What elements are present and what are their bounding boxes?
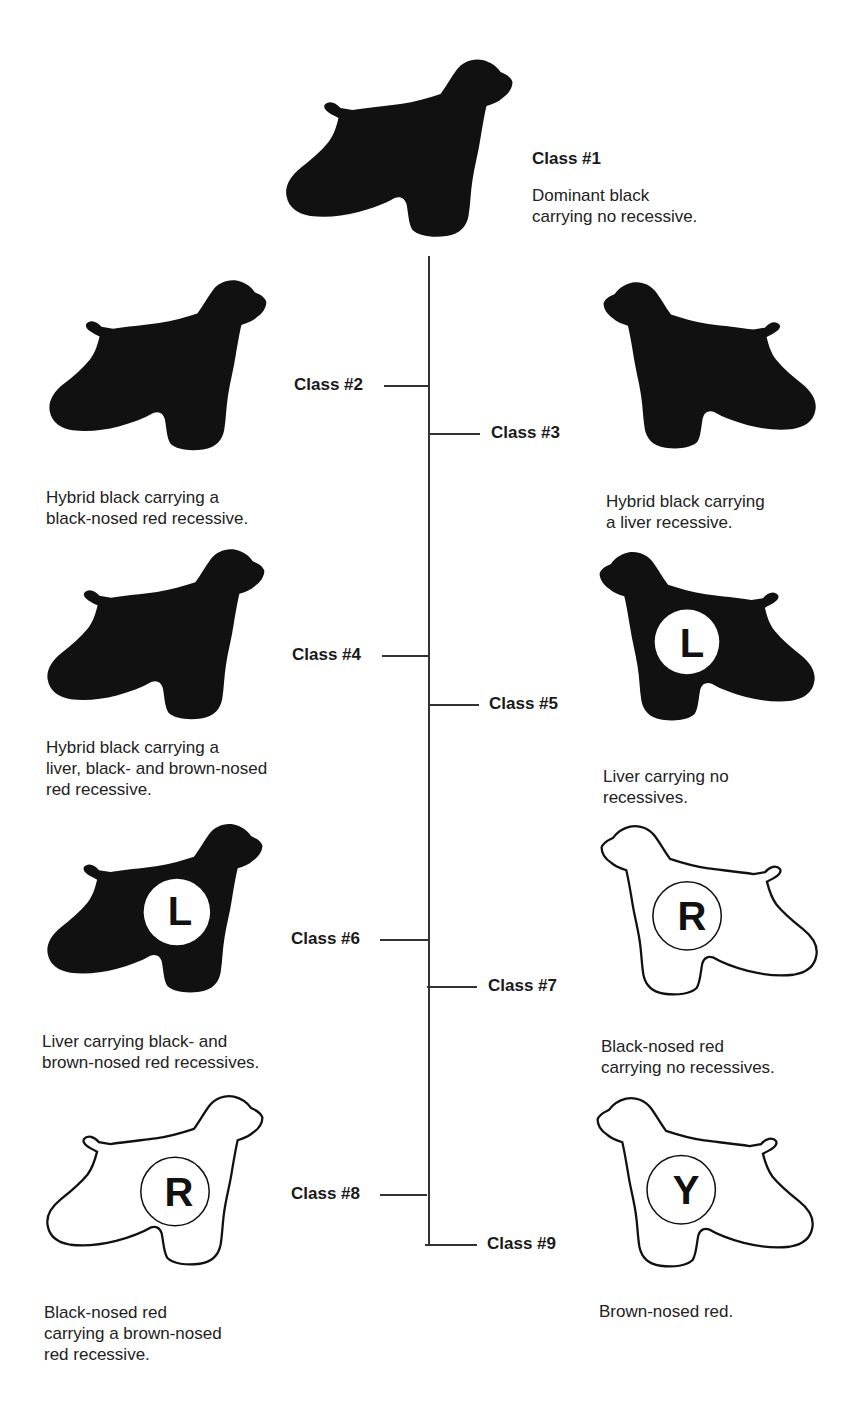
class-1-description: Dominant black carrying no recessive. — [532, 185, 697, 227]
dog-silhouette-class-2 — [44, 276, 274, 460]
class-8-connector — [380, 1194, 427, 1196]
class-9-connector — [425, 1244, 477, 1246]
dog-silhouette-class-4 — [42, 544, 272, 730]
class-5-badge: L — [658, 612, 726, 674]
class-7-label: Class #7 — [488, 976, 557, 996]
dog-silhouette-class-6: L — [42, 818, 270, 1004]
class-6-connector — [380, 939, 428, 941]
dog-silhouette-class-7: R — [594, 820, 822, 1006]
dog-silhouette-class-5: L — [592, 546, 820, 732]
class-4-description: Hybrid black carrying a liver, black- an… — [46, 737, 267, 800]
class-2-description: Hybrid black carrying a black-nosed red … — [46, 487, 248, 529]
class-4-label: Class #4 — [292, 645, 361, 665]
class-8-badge: R — [143, 1160, 215, 1224]
class-4-connector — [382, 655, 429, 657]
class-8-description: Black-nosed red carrying a brown-nosed r… — [44, 1302, 222, 1365]
class-9-description: Brown-nosed red. — [599, 1301, 733, 1322]
spaniel-solid-icon — [44, 276, 274, 460]
class-5-label: Class #5 — [489, 694, 558, 714]
spaniel-solid-icon — [42, 544, 272, 730]
class-6-description: Liver carrying black- and brown-nosed re… — [42, 1031, 259, 1073]
spaniel-solid-icon — [596, 276, 821, 460]
dog-silhouette-class-8: R — [42, 1090, 270, 1276]
class-3-connector — [430, 433, 480, 435]
class-5-description: Liver carrying no recessives. — [603, 766, 729, 808]
dog-silhouette-class-3 — [596, 276, 821, 460]
class-7-description: Black-nosed red carrying no recessives. — [601, 1036, 775, 1078]
class-7-badge: R — [656, 884, 728, 948]
main-vertical-connector — [428, 256, 430, 1246]
class-6-badge: L — [145, 880, 215, 942]
class-8-label: Class #8 — [291, 1184, 360, 1204]
dog-silhouette-class-1 — [278, 56, 523, 246]
class-7-connector — [427, 986, 477, 988]
class-3-label: Class #3 — [491, 423, 560, 443]
class-5-connector — [429, 704, 479, 706]
class-1-label: Class #1 — [532, 149, 601, 169]
class-6-label: Class #6 — [291, 929, 360, 949]
class-2-connector — [384, 385, 430, 387]
spaniel-solid-icon — [278, 56, 523, 246]
dog-silhouette-class-9: Y — [590, 1092, 818, 1278]
class-9-label: Class #9 — [487, 1234, 556, 1254]
class-2-label: Class #2 — [294, 375, 363, 395]
class-3-description: Hybrid black carrying a liver recessive. — [606, 491, 765, 533]
class-9-badge: Y — [650, 1158, 722, 1222]
